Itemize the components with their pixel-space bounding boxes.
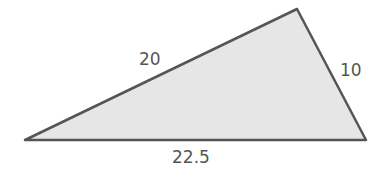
side-label-right: 10 — [340, 62, 362, 79]
triangle-diagram: 20 10 22.5 — [0, 0, 390, 170]
side-label-left: 20 — [139, 51, 161, 68]
side-label-base: 22.5 — [172, 149, 210, 166]
triangle-shape — [0, 0, 390, 170]
